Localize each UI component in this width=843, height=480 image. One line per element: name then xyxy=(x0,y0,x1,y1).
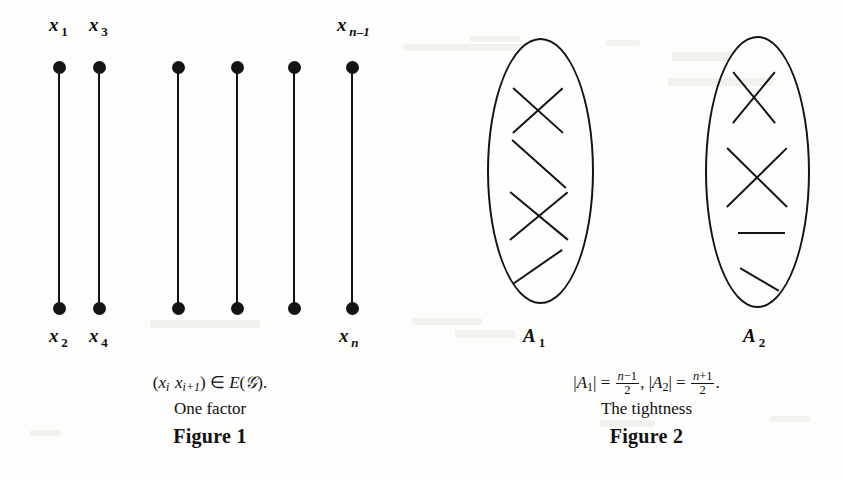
figure2-formula-text: |A1| = n−12, |A2| = n+12. xyxy=(573,373,719,392)
vertex-label-subscript: 3 xyxy=(101,24,108,40)
set-label-base: A xyxy=(743,325,756,346)
figure1-node-bottom xyxy=(231,302,244,315)
scan-artifact xyxy=(672,52,732,61)
fraction: n−12 xyxy=(616,370,640,397)
vertex-label-base: x xyxy=(49,325,59,346)
vertex-label-base: x xyxy=(89,14,99,35)
figure1-formula: (xi xi+1) ∈ E(𝒢). xyxy=(0,372,420,395)
figure2-subtitle: The tightness xyxy=(450,399,843,419)
figure1-edge xyxy=(177,68,179,308)
figure1-node-bottom xyxy=(93,302,106,315)
set-label-subscript: 2 xyxy=(759,335,766,351)
set-label-subscript: 1 xyxy=(539,335,546,351)
scan-artifact xyxy=(470,36,520,42)
vertex-label-subscript: n xyxy=(351,335,358,351)
set-label-A1: A1 xyxy=(523,325,545,347)
figure1-bottom-vertex-label: xn xyxy=(339,325,359,347)
vertex-label-base: x xyxy=(337,14,347,35)
figure1-formula-text: (xi xi+1) ∈ E(𝒢). xyxy=(153,373,267,392)
figure1-node-top xyxy=(53,61,66,74)
figure1-top-vertex-label: x1 xyxy=(49,14,68,36)
figure1-node-bottom xyxy=(288,302,301,315)
figure1-bottom-vertex-label: x2 xyxy=(49,325,68,347)
figure-canvas: x1x3xn–1x2x4xn(xi xi+1) ∈ E(𝒢).One facto… xyxy=(0,0,843,480)
figure1-node-top xyxy=(231,61,244,74)
scan-artifact xyxy=(455,330,515,338)
figure1-title: Figure 1 xyxy=(0,425,420,448)
scan-artifact xyxy=(404,44,524,51)
set-label-base: A xyxy=(523,325,536,346)
figure1-node-top xyxy=(288,61,301,74)
figure1-edge xyxy=(293,68,295,308)
vertex-label-subscript: 2 xyxy=(61,335,68,351)
figure2-title: Figure 2 xyxy=(450,425,843,448)
figure1-top-vertex-label: x3 xyxy=(89,14,108,36)
set-edge-horizontal xyxy=(738,232,785,234)
figure2-formula: |A1| = n−12, |A2| = n+12. xyxy=(450,370,843,397)
figure1-edge xyxy=(58,68,60,308)
vertex-label-base: x xyxy=(89,325,99,346)
figure1-node-top xyxy=(172,61,185,74)
vertex-label-base: x xyxy=(49,14,59,35)
vertex-label-subscript: n–1 xyxy=(349,24,370,40)
fraction: n+12 xyxy=(691,370,715,397)
scan-artifact xyxy=(412,318,482,325)
figure1-node-bottom xyxy=(53,302,66,315)
figure1-top-vertex-label: xn–1 xyxy=(337,14,370,36)
figure1-node-top xyxy=(93,61,106,74)
figure1-node-bottom xyxy=(172,302,185,315)
vertex-label-base: x xyxy=(339,325,349,346)
figure1-edge xyxy=(351,68,353,308)
scan-artifact xyxy=(150,320,260,328)
vertex-label-subscript: 4 xyxy=(101,335,108,351)
set-label-A2: A2 xyxy=(743,325,765,347)
figure1-edge xyxy=(236,68,238,308)
figure1-subtitle: One factor xyxy=(0,399,420,419)
vertex-label-subscript: 1 xyxy=(61,24,68,40)
scan-artifact xyxy=(606,40,640,46)
figure1-edge xyxy=(98,68,100,308)
set-ellipse-A2 xyxy=(705,36,810,308)
figure1-node-bottom xyxy=(346,302,359,315)
figure1-bottom-vertex-label: x4 xyxy=(89,325,108,347)
figure1-node-top xyxy=(346,61,359,74)
